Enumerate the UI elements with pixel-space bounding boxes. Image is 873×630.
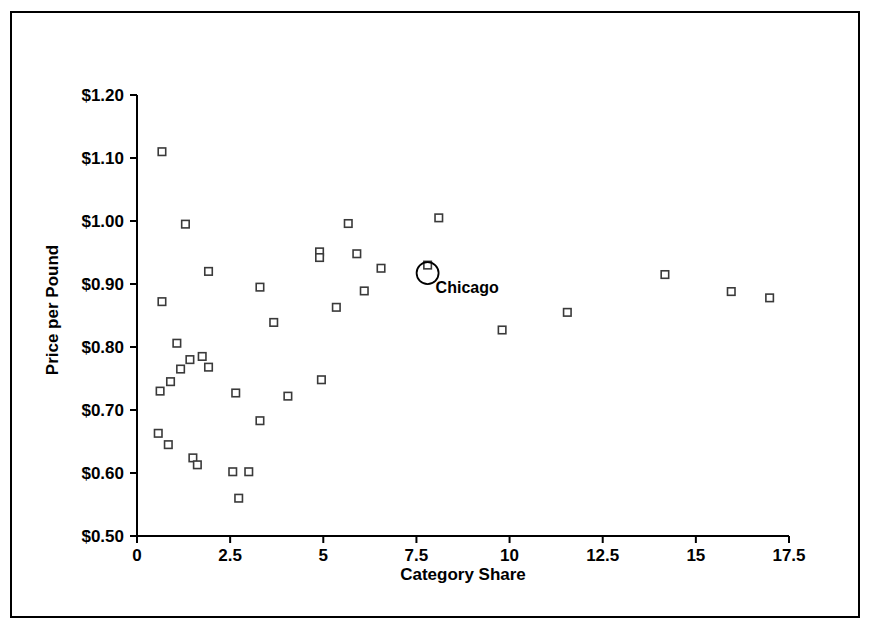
y-tick-label: $1.20 xyxy=(81,86,124,105)
x-tick-label: 17.5 xyxy=(772,546,805,565)
x-tick-label: 15 xyxy=(686,546,705,565)
data-point-marker xyxy=(361,287,369,295)
x-axis-ticks xyxy=(137,536,789,543)
data-point-marker xyxy=(661,271,669,279)
y-tick-label: $1.00 xyxy=(81,212,124,231)
screenshot-root: $0.50$0.60$0.70$0.80$0.90$1.00$1.10$1.20… xyxy=(0,0,873,630)
data-point-marker xyxy=(198,353,206,361)
data-point-marker xyxy=(235,494,243,502)
data-point-marker xyxy=(318,376,326,384)
data-point-group xyxy=(154,148,773,502)
data-point-marker xyxy=(256,417,264,425)
data-point-marker xyxy=(256,283,264,291)
data-point-marker xyxy=(232,389,240,397)
x-tick-label: 0 xyxy=(132,546,141,565)
y-tick-label: $0.50 xyxy=(81,527,124,546)
y-axis-title: Price per Pound xyxy=(43,245,62,375)
data-point-marker xyxy=(182,220,190,228)
y-axis-tick-labels: $0.50$0.60$0.70$0.80$0.90$1.00$1.10$1.20 xyxy=(81,86,124,546)
data-point-marker xyxy=(205,268,213,276)
data-point-marker xyxy=(186,356,194,364)
data-point-marker xyxy=(156,387,164,395)
y-axis-ticks xyxy=(130,95,137,536)
data-point-marker xyxy=(205,363,213,371)
annotation-label-chicago: Chicago xyxy=(436,279,499,296)
data-point-marker xyxy=(158,298,166,306)
data-point-marker xyxy=(728,288,736,296)
data-point-marker xyxy=(333,304,341,312)
x-tick-label: 12.5 xyxy=(586,546,619,565)
data-point-marker xyxy=(173,339,181,347)
y-tick-label: $1.10 xyxy=(81,149,124,168)
data-point-marker xyxy=(165,441,173,449)
data-point-marker xyxy=(377,265,385,273)
data-point-marker xyxy=(353,250,361,258)
data-point-marker xyxy=(316,254,324,261)
data-point-marker xyxy=(284,392,292,400)
data-point-marker xyxy=(766,294,774,302)
data-point-marker xyxy=(245,468,253,476)
data-point-marker xyxy=(270,319,278,327)
data-point-marker xyxy=(154,430,162,438)
y-tick-label: $0.80 xyxy=(81,338,124,357)
data-point-marker xyxy=(564,309,572,317)
x-tick-label: 7.5 xyxy=(405,546,429,565)
data-point-marker xyxy=(345,220,353,228)
x-tick-label: 5 xyxy=(319,546,328,565)
data-point-marker xyxy=(498,326,506,334)
data-point-marker xyxy=(167,378,175,386)
y-tick-label: $0.60 xyxy=(81,464,124,483)
y-tick-label: $0.70 xyxy=(81,401,124,420)
data-point-marker xyxy=(229,468,237,476)
data-point-marker xyxy=(158,148,166,156)
scatter-plot: $0.50$0.60$0.70$0.80$0.90$1.00$1.10$1.20… xyxy=(0,0,873,630)
x-tick-label: 10 xyxy=(500,546,519,565)
x-axis-title: Category Share xyxy=(400,565,526,584)
y-tick-label: $0.90 xyxy=(81,275,124,294)
x-tick-label: 2.5 xyxy=(218,546,242,565)
data-point-marker xyxy=(177,365,185,373)
data-point-marker xyxy=(194,461,202,469)
data-point-marker xyxy=(435,214,443,222)
x-axis-tick-labels: 02.557.51012.51517.5 xyxy=(132,546,805,565)
